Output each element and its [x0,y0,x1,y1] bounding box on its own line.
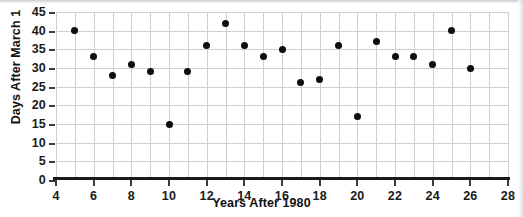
gridline-vertical [131,12,132,180]
gridline-vertical [508,12,509,180]
scatter-chart-figure: 051015202530354045 468101214161820222426… [0,0,523,217]
y-axis-tick-label: 35 [32,42,46,56]
gridline-vertical [244,12,245,180]
y-axis-tick-mark [49,87,55,89]
data-point [166,121,173,128]
y-axis-tick-mark [49,12,55,14]
y-axis-tick-label: 15 [32,117,46,131]
x-axis-tick-mark [507,180,509,186]
gridline-vertical [357,12,358,180]
data-point [429,61,436,68]
y-axis-tick-label: 40 [32,24,46,38]
gridline-vertical [470,12,471,180]
y-axis-tick-mark [49,105,55,107]
y-axis-tick-mark [49,31,55,33]
x-axis-tick-mark [55,180,57,186]
data-point [128,61,135,68]
gridline-vertical [452,12,453,180]
x-axis-title: Years After 1980 [0,196,523,210]
gridline-vertical [226,12,227,180]
y-axis-title: Days After March 1 [9,0,23,137]
y-axis-tick-mark [49,161,55,163]
data-point [316,76,323,83]
gridline-vertical [113,12,114,180]
page-edge-shadow-right [518,0,523,217]
data-point [279,46,286,53]
x-axis-tick-mark [130,180,132,186]
y-axis-tick-label: 45 [32,5,46,19]
data-point [354,113,361,120]
x-axis-tick-mark [93,180,95,186]
y-axis-tick-label: 0 [39,173,46,187]
x-axis-tick-mark [243,180,245,186]
gridline-vertical [339,12,340,180]
y-axis-tick-label: 5 [39,154,46,168]
y-axis-tick-mark [49,68,55,70]
x-axis-tick-mark [206,180,208,186]
gridline-vertical [395,12,396,180]
x-axis-tick-mark [319,180,321,186]
gridline-vertical [169,12,170,180]
gridline-vertical [414,12,415,180]
gridline-vertical [94,12,95,180]
y-axis-tick-label: 20 [32,98,46,112]
y-axis-tick-label: 10 [32,136,46,150]
y-axis-tick-label: 30 [32,61,46,75]
data-point [392,53,399,60]
gridline-vertical [301,12,302,180]
x-axis-tick-mark [281,180,283,186]
gridline-vertical [56,12,57,180]
x-axis-tick-mark [168,180,170,186]
y-axis-tick-label: 25 [32,80,46,94]
y-axis-tick-mark [49,143,55,145]
data-point [222,20,229,27]
data-point [260,53,267,60]
x-axis-tick-mark [356,180,358,186]
gridline-vertical [207,12,208,180]
y-axis-tick-mark [49,124,55,126]
gridline-vertical [489,12,490,180]
x-axis-tick-mark [394,180,396,186]
data-point [147,68,154,75]
data-point [467,65,474,72]
gridline-vertical [376,12,377,180]
gridline-vertical [263,12,264,180]
x-axis-tick-mark [469,180,471,186]
data-point [109,72,116,79]
gridline-vertical [433,12,434,180]
gridline-vertical [320,12,321,180]
gridline-vertical [150,12,151,180]
plot-area: 051015202530354045 468101214161820222426… [56,12,508,180]
page-edge-shadow-top [0,0,523,4]
gridline-vertical [75,12,76,180]
gridline-vertical [282,12,283,180]
data-point [373,38,380,45]
x-axis-tick-mark [432,180,434,186]
x-axis-line [53,177,510,180]
y-axis-tick-mark [49,49,55,51]
data-point [241,42,248,49]
gridline-vertical [188,12,189,180]
